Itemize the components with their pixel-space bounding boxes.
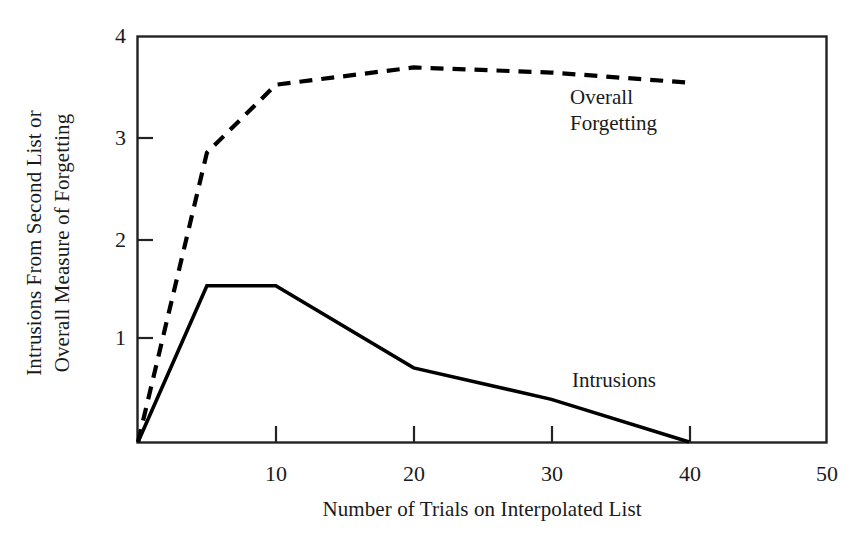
chart-figure: Intrusions From Second List or Overall M… [0, 0, 867, 538]
annotation-overall-forgetting: Overall Forgetting [570, 84, 657, 136]
axis-frame [138, 37, 827, 443]
series-line-intrusions [138, 286, 689, 442]
annotation-overall-forgetting-line-1: Overall [570, 84, 657, 110]
plot-area [0, 0, 867, 538]
annotation-overall-forgetting-line-2: Forgetting [570, 110, 657, 136]
annotation-intrusions: Intrusions [572, 367, 656, 393]
